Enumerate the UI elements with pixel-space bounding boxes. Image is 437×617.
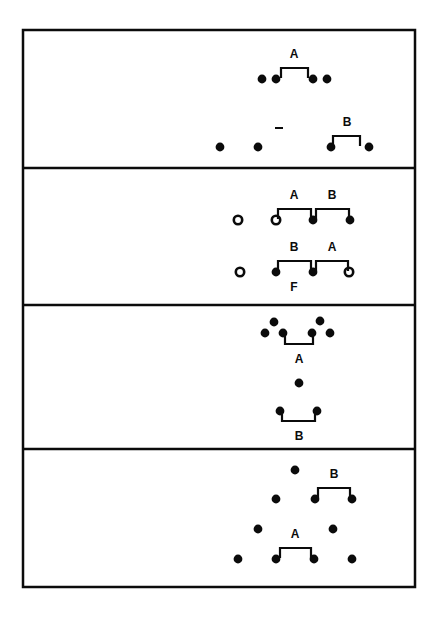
dot-filled (254, 143, 263, 152)
bracket-b (318, 488, 350, 498)
dot-filled (234, 555, 243, 564)
dot-filled (348, 555, 357, 564)
bracket-label-a: A (290, 47, 299, 61)
bracket-a (316, 261, 348, 271)
dot-filled (254, 525, 263, 534)
dot-filled (309, 75, 318, 84)
figure-root: ABABBAFABBA (0, 0, 437, 617)
figure-canvas: ABABBAFABBA (0, 0, 437, 617)
dot-filled (316, 317, 325, 326)
dot-filled (323, 75, 332, 84)
bracket-b (316, 209, 349, 219)
figure-outer-frame (23, 30, 415, 587)
dot-filled (295, 379, 304, 388)
bracket-b (333, 136, 360, 146)
bracket-label-a: A (328, 240, 337, 254)
bracket-a (281, 68, 308, 78)
panel-2: ABBAF (234, 188, 355, 294)
panel-4: BA (234, 466, 357, 564)
dot-filled (329, 525, 338, 534)
figure-label-f: F (290, 280, 297, 294)
dot-filled (291, 466, 300, 475)
bracket-label-b: B (328, 188, 337, 202)
dot-filled (365, 143, 374, 152)
dot-open (236, 268, 244, 276)
bracket-b (282, 411, 315, 421)
dot-filled (326, 329, 335, 338)
bracket-label-a: A (291, 527, 300, 541)
bracket-a (280, 548, 311, 558)
bracket-a (278, 209, 311, 219)
dot-open (234, 216, 242, 224)
panel-3: AB (261, 317, 335, 444)
dot-filled (258, 75, 267, 84)
dot-filled (272, 75, 281, 84)
bracket-label-b: B (330, 467, 339, 481)
dot-filled (272, 495, 281, 504)
bracket-label-b: B (290, 240, 299, 254)
panel-1: AB (216, 47, 374, 151)
bracket-label-a: A (295, 352, 304, 366)
bracket-label-b: B (343, 115, 352, 129)
dot-filled (216, 143, 225, 152)
bracket-label-b: B (295, 429, 304, 443)
dot-filled (270, 318, 279, 327)
bracket-label-a: A (290, 188, 299, 202)
dot-filled (261, 329, 270, 338)
bracket-b (278, 261, 311, 271)
